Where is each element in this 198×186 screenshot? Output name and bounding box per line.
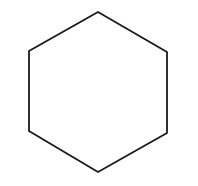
diagram-canvas [0, 0, 198, 186]
hexagon-shape [29, 12, 167, 172]
hexagon-diagram [0, 0, 198, 186]
